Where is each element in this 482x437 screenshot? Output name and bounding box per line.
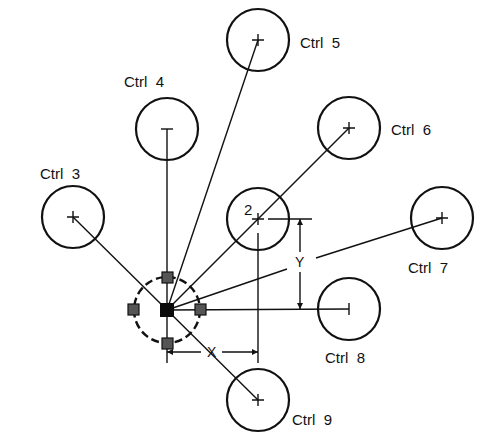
y-dimension-label: Y: [295, 255, 304, 269]
label-ctrl5: Ctrl 5: [300, 35, 340, 50]
grip-top[interactable]: [162, 272, 173, 283]
grip-right[interactable]: [195, 304, 206, 315]
grip-bottom[interactable]: [162, 338, 173, 349]
diagram-canvas: [0, 0, 482, 437]
label-ctrl8: Ctrl 8: [325, 350, 365, 365]
label-ctrl6: Ctrl 6: [391, 122, 431, 137]
label-ctrl3: Ctrl 3: [40, 166, 80, 181]
connector-ctrl5: [167, 40, 258, 310]
label-ctrl7: Ctrl 7: [408, 260, 448, 275]
connector-ctrl3: [73, 217, 167, 310]
center-grip[interactable]: [160, 303, 174, 317]
x-dimension-label: X: [207, 345, 216, 359]
grip-left[interactable]: [128, 304, 139, 315]
label-reference-2: 2: [244, 202, 252, 217]
label-ctrl4: Ctrl 4: [124, 74, 164, 89]
label-ctrl9: Ctrl 9: [292, 412, 332, 427]
connector-ctrl7b: [316, 218, 442, 258]
connector-ctrl7a: [167, 269, 287, 310]
